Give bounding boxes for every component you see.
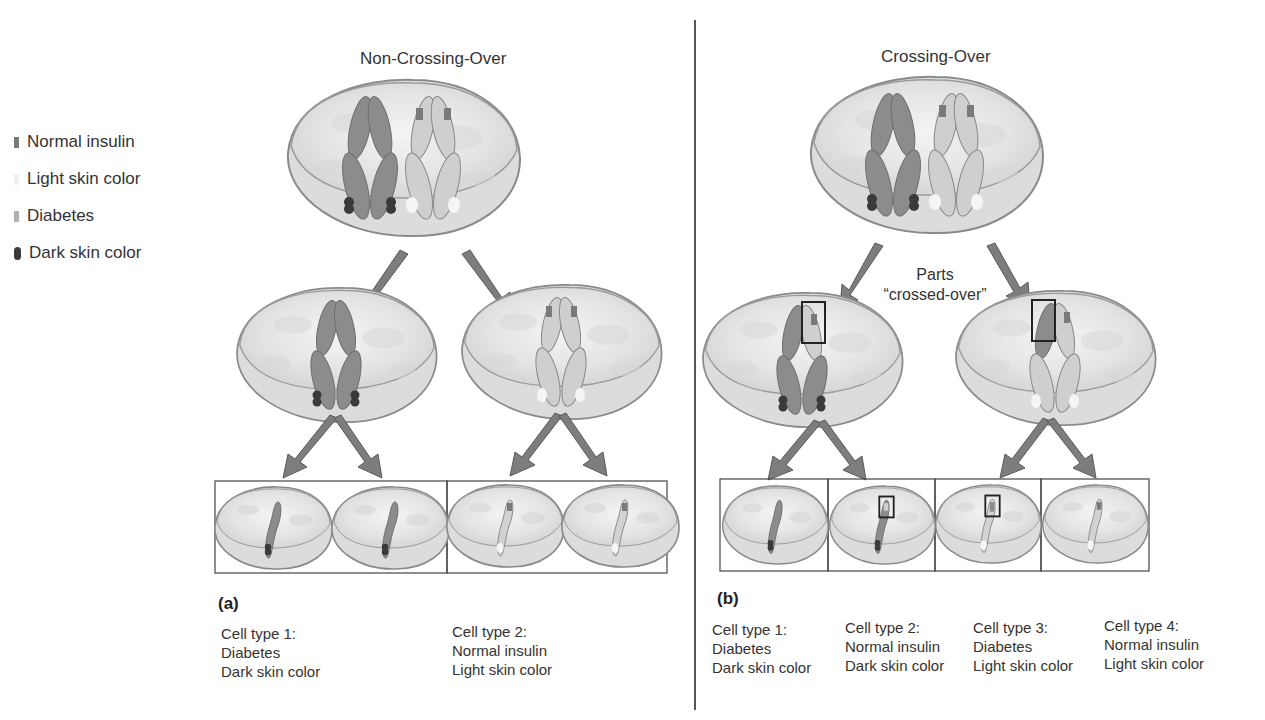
cell-type-name: Cell type 1: [712, 620, 811, 639]
note-line-1: Parts [880, 265, 990, 285]
cell-type-trait: Normal insulin [845, 637, 944, 656]
panel-a-title: Non-Crossing-Over [360, 49, 506, 69]
cell-type-name: Cell type 3: [973, 618, 1073, 637]
cell-type-name: Cell type 2: [452, 622, 552, 641]
panel-a-cell-type-2: Cell type 2: Normal insulin Light skin c… [452, 622, 552, 679]
panel-b-cell-type-4: Cell type 4: Normal insulin Light skin c… [1104, 616, 1204, 673]
cell-type-trait: Light skin color [452, 660, 552, 679]
cell-type-trait: Normal insulin [1104, 635, 1204, 654]
cell-type-trait: Normal insulin [452, 641, 552, 660]
panel-b-title: Crossing-Over [881, 47, 991, 67]
cell-type-trait: Diabetes [973, 637, 1073, 656]
note-line-2: “crossed-over” [880, 285, 990, 305]
legend-label: Light skin color [27, 169, 140, 189]
legend-label: Normal insulin [27, 132, 135, 152]
legend-item-normal-insulin: Normal insulin [14, 132, 135, 152]
crossed-over-note: Parts “crossed-over” [880, 265, 990, 305]
diabetes-swatch-icon [14, 211, 19, 222]
cell-type-trait: Dark skin color [712, 658, 811, 677]
panel-b-cell-type-2: Cell type 2: Normal insulin Dark skin co… [845, 618, 944, 675]
parent-cell-a [288, 80, 520, 236]
dark-skin-swatch-icon [14, 247, 21, 260]
panel-b-cell-type-3: Cell type 3: Diabetes Light skin color [973, 618, 1073, 675]
legend-item-diabetes: Diabetes [14, 206, 94, 226]
cell-type-trait: Diabetes [221, 643, 320, 662]
cell-type-trait: Dark skin color [845, 656, 944, 675]
cell-type-trait: Light skin color [1104, 654, 1204, 673]
cell-type-trait: Diabetes [712, 639, 811, 658]
legend-item-light-skin: Light skin color [14, 169, 140, 189]
panel-divider [694, 20, 696, 710]
legend-label: Diabetes [27, 206, 94, 226]
cell-type-trait: Dark skin color [221, 662, 320, 681]
panel-b-label: (b) [717, 589, 739, 609]
cell-type-name: Cell type 4: [1104, 616, 1204, 635]
normal-insulin-swatch-icon [14, 137, 19, 148]
cell-type-name: Cell type 1: [221, 624, 320, 643]
panel-b-cell-type-1: Cell type 1: Diabetes Dark skin color [712, 620, 811, 677]
arrows-a-level2 [283, 413, 607, 478]
legend-item-dark-skin: Dark skin color [14, 243, 141, 263]
panel-a-label: (a) [218, 594, 239, 614]
cell-type-trait: Light skin color [973, 656, 1073, 675]
diagram-graphics [0, 0, 1265, 720]
arrows-b-level2 [768, 418, 1096, 480]
legend-label: Dark skin color [29, 243, 141, 263]
panel-a-cell-type-1: Cell type 1: Diabetes Dark skin color [221, 624, 320, 681]
cell-type-name: Cell type 2: [845, 618, 944, 637]
light-skin-swatch-icon [14, 174, 19, 185]
